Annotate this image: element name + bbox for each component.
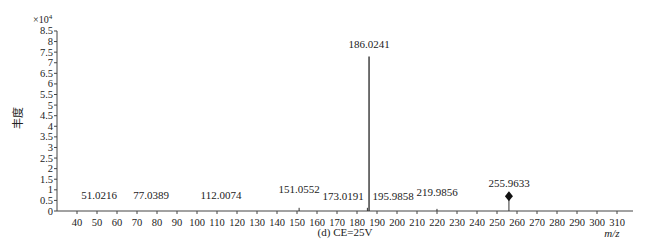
y-tick-label: 8.5 <box>40 25 53 36</box>
x-tick-label: 220 <box>429 217 445 228</box>
peak: 173.0191 <box>322 190 363 202</box>
y-tick-label: 0.5 <box>40 195 53 206</box>
peak: 255.9633 <box>488 177 530 211</box>
x-tick-label: 290 <box>569 217 585 228</box>
x-tick-label: 230 <box>449 217 465 228</box>
y-multiplier-label: ×104 <box>33 13 53 25</box>
x-tick-label: 120 <box>229 217 245 228</box>
x-tick-label: 210 <box>409 217 425 228</box>
peak-label: 195.9858 <box>372 190 414 202</box>
peak-label: 77.0389 <box>133 189 169 201</box>
y-tick-label: 5 <box>48 100 53 111</box>
y-tick-label: 2 <box>48 163 53 174</box>
x-tick-label: 280 <box>549 217 565 228</box>
x-tick-label: 270 <box>529 217 545 228</box>
x-tick-label: 110 <box>209 217 224 228</box>
x-tick-label: 300 <box>589 217 605 228</box>
x-tick-label: 100 <box>189 217 205 228</box>
x-tick-label: 260 <box>509 217 525 228</box>
y-tick-label: 6.5 <box>40 68 53 79</box>
y-tick-label: 2.5 <box>40 153 53 164</box>
peaks: 51.021677.0389112.0074151.0552173.019118… <box>81 38 530 211</box>
peak-label: 255.9633 <box>488 177 530 189</box>
peak: 51.0216 <box>81 189 117 201</box>
y-tick-label: 5.5 <box>40 89 53 100</box>
y-axis-label: 丰度 <box>11 107 24 129</box>
peak: 112.0074 <box>201 189 242 201</box>
x-tick-label: 70 <box>132 217 143 228</box>
x-tick-label: 90 <box>172 217 183 228</box>
x-tick-label: 60 <box>112 217 123 228</box>
y-tick-label: 4.5 <box>40 110 53 121</box>
x-tick-label: 200 <box>389 217 405 228</box>
x-tick-label: 50 <box>92 217 103 228</box>
peak: 151.0552 <box>278 183 319 211</box>
peak: 186.0241 <box>348 38 389 211</box>
y-tick-label: 3.5 <box>40 131 53 142</box>
y-tick-label: 1.5 <box>40 174 53 185</box>
peak-label: 219.9856 <box>416 186 458 198</box>
peak: 195.9858 <box>372 190 414 202</box>
y-axis: 00.511.522.533.544.555.566.577.588.5 <box>40 25 57 216</box>
x-tick-label: 140 <box>269 217 285 228</box>
x-tick-label: 250 <box>489 217 505 228</box>
diamond-marker-icon <box>505 191 513 201</box>
peak-label: 173.0191 <box>322 190 363 202</box>
peak-label: 51.0216 <box>81 189 117 201</box>
y-tick-label: 4 <box>48 121 54 132</box>
x-tick-label: 130 <box>249 217 265 228</box>
peak-label: 186.0241 <box>348 38 389 50</box>
y-tick-label: 1 <box>48 184 53 195</box>
y-tick-label: 7 <box>48 57 53 68</box>
y-tick-label: 3 <box>48 142 53 153</box>
x-axis-label: m/z <box>604 227 620 239</box>
x-tick-label: 150 <box>289 217 305 228</box>
y-tick-label: 8 <box>48 36 53 47</box>
mass-spectrum-chart: 00.511.522.533.544.555.566.577.588.5 405… <box>0 0 649 248</box>
y-tick-label: 0 <box>48 206 53 217</box>
peak-label: 151.0552 <box>278 183 319 195</box>
y-tick-label: 7.5 <box>40 47 53 58</box>
peak: 219.9856 <box>416 186 458 211</box>
x-tick-label: 240 <box>469 217 485 228</box>
peak-label: 112.0074 <box>201 189 242 201</box>
y-tick-label: 6 <box>48 78 53 89</box>
x-tick-label: 80 <box>152 217 163 228</box>
chart-caption: (d) CE=25V <box>318 226 373 239</box>
x-tick-label: 40 <box>72 217 83 228</box>
peak: 77.0389 <box>133 189 169 201</box>
